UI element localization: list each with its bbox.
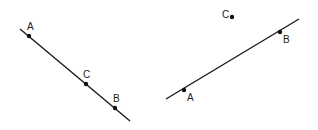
diagram-canvas: A C B A B C bbox=[0, 0, 318, 130]
point-a-left bbox=[27, 34, 31, 38]
point-b-left bbox=[113, 106, 117, 110]
point-a-right bbox=[182, 88, 186, 92]
figure-right-noncollinear: A B C bbox=[166, 9, 299, 103]
diagram-svg: A C B A B C bbox=[0, 0, 318, 130]
label-c-right: C bbox=[222, 9, 229, 20]
label-b-left: B bbox=[113, 93, 120, 104]
point-c-right bbox=[230, 15, 234, 19]
figure-left-collinear: A C B bbox=[20, 21, 130, 121]
label-c-left: C bbox=[83, 69, 90, 80]
label-a-right: A bbox=[187, 92, 194, 103]
point-c-left bbox=[84, 82, 88, 86]
label-a-left: A bbox=[27, 21, 34, 32]
label-b-right: B bbox=[283, 34, 290, 45]
point-b-right bbox=[278, 30, 282, 34]
